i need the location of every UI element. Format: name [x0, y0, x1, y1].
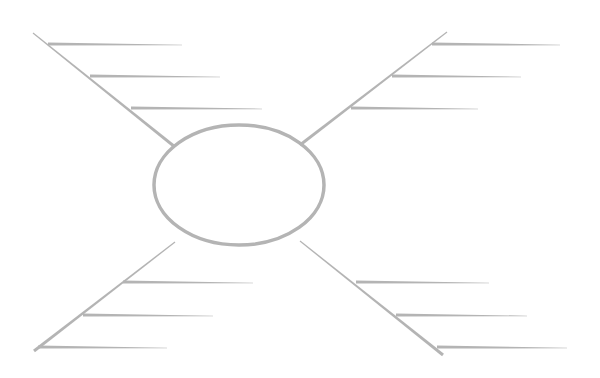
spider-diagram — [0, 0, 600, 378]
leg-bottom-right — [300, 241, 567, 357]
branch-line[interactable] — [131, 106, 262, 109]
branch-line[interactable] — [437, 345, 567, 348]
center-topic-oval[interactable] — [154, 125, 324, 245]
branch-line[interactable] — [38, 345, 167, 348]
branch-line[interactable] — [123, 280, 253, 283]
branch-line[interactable] — [83, 313, 213, 316]
branch-line[interactable] — [432, 42, 560, 45]
branch-line[interactable] — [356, 280, 489, 283]
branch-line[interactable] — [48, 42, 182, 45]
leg-top-right — [299, 32, 560, 147]
spine-line — [299, 32, 447, 147]
branch-line[interactable] — [90, 74, 220, 77]
spine-line — [33, 242, 175, 353]
spine-line — [300, 241, 444, 357]
spider-diagram-canvas — [0, 0, 600, 378]
branch-line[interactable] — [392, 74, 521, 77]
spine-line — [33, 33, 176, 149]
spider-legs — [33, 32, 567, 357]
leg-bottom-left — [33, 242, 253, 353]
branch-line[interactable] — [396, 313, 527, 316]
leg-top-left — [33, 33, 262, 149]
branch-line[interactable] — [351, 106, 478, 109]
